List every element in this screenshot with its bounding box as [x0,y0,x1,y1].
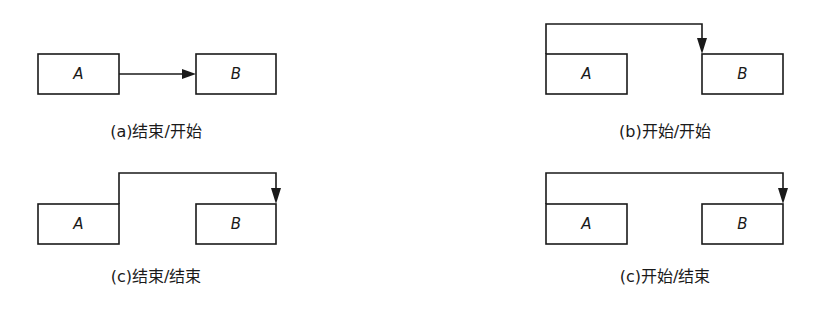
panel-b: A B [546,24,783,94]
task-label-a: A [580,215,591,233]
task-label-b: B [737,215,747,233]
task-label-b: B [737,65,747,83]
task-label-a: A [72,65,83,83]
dependency-arrow-line [546,24,702,54]
task-label-b: B [231,215,241,233]
arrowhead-icon [271,188,281,204]
caption-b: (b)开始/开始 [619,118,711,142]
arrowhead-icon [697,38,707,54]
arrowhead-icon [182,69,196,79]
task-label-a: A [72,215,83,233]
panel-c-finish-finish: A B [38,173,281,244]
panel-c-start-finish: A B [546,173,788,244]
caption-c-start-finish: (c)开始/结束 [620,263,711,287]
dependency-arrow-line [119,173,276,204]
caption-a: (a)结束/开始 [110,118,202,142]
panel-a: A B [38,54,276,94]
task-label-a: A [580,65,591,83]
caption-c-finish-finish: (c)结束/结束 [111,263,202,287]
dependency-arrow-line [546,173,783,204]
arrowhead-icon [778,188,788,204]
task-label-b: B [231,65,241,83]
